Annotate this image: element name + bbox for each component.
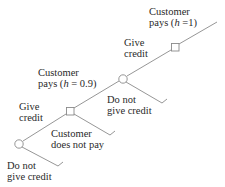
label-customer-pays-1: Customer pays (h =1) (149, 6, 197, 28)
label-line: does not pay (51, 139, 104, 150)
label-customer-pays-0-9: Customer pays (h = 0.9) (38, 67, 96, 89)
label-line: Customer (149, 6, 197, 17)
label-line: give credit (7, 171, 52, 182)
label-line: Do not (7, 160, 52, 171)
label-do-not-give-credit-1: Do not give credit (7, 160, 52, 182)
decision-node-circle-1 (15, 140, 23, 148)
decision-node-circle-2 (119, 75, 127, 83)
chance-node-square-1 (67, 108, 75, 116)
chance-node-square-2 (172, 44, 180, 52)
label-line: give credit (107, 105, 152, 116)
label-give-credit-1: Give credit (19, 101, 43, 123)
label-line: pays (h =1) (149, 17, 197, 28)
label-line: Do not (107, 94, 152, 105)
label-line: pays (h = 0.9) (38, 78, 96, 89)
terminal-tick (110, 131, 115, 135)
label-give-credit-2: Give credit (124, 37, 148, 59)
label-do-not-give-credit-2: Do not give credit (107, 94, 152, 116)
terminal-tick (58, 162, 63, 166)
label-line: Customer (51, 128, 104, 139)
label-line: Give (19, 101, 43, 112)
label-line: credit (124, 48, 148, 59)
label-line: Customer (38, 67, 96, 78)
label-line: Give (124, 37, 148, 48)
decision-tree-diagram: Do not give credit Give credit Customer … (0, 0, 225, 187)
label-line: credit (19, 112, 43, 123)
terminal-tick (162, 99, 167, 103)
label-customer-does-not-pay: Customer does not pay (51, 128, 104, 150)
